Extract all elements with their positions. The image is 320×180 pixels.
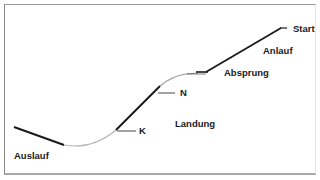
outrun-line bbox=[14, 127, 64, 145]
label-start: Start bbox=[293, 24, 315, 34]
knoll-curve bbox=[160, 73, 198, 86]
landing-slope-line bbox=[116, 86, 160, 130]
label-anlauf: Anlauf bbox=[263, 46, 293, 56]
label-k-point: K bbox=[139, 126, 146, 136]
label-landung: Landung bbox=[175, 119, 215, 129]
label-auslauf: Auslauf bbox=[14, 151, 49, 161]
outrun-transition-curve bbox=[64, 130, 116, 146]
label-n-point: N bbox=[180, 88, 187, 98]
label-absprung: Absprung bbox=[224, 68, 269, 78]
